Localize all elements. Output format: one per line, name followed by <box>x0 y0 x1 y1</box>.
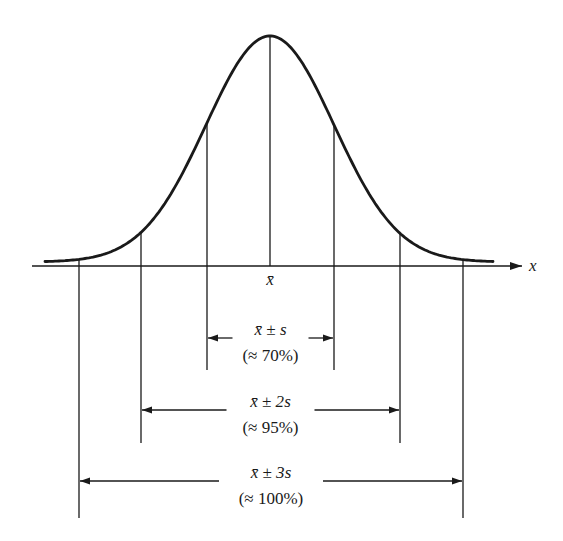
interval-3s: x̄ ± 3s(≈ 100%) <box>79 259 463 518</box>
interval-formula-1s: x̄ ± s <box>253 320 286 339</box>
interval-percent-1s: (≈ 70%) <box>242 346 298 365</box>
normal-distribution-diagram: x x̄ x̄ ± s(≈ 70%)x̄ ± 2s(≈ 95%)x̄ ± 3s(… <box>0 0 563 541</box>
interval-percent-2s: (≈ 95%) <box>242 418 298 437</box>
interval-percent-3s: (≈ 100%) <box>239 489 304 508</box>
x-axis-label: x <box>528 256 537 275</box>
mean-label: x̄ <box>265 270 274 289</box>
interval-formula-3s: x̄ ± 3s <box>250 463 292 482</box>
interval-formula-2s: x̄ ± 2s <box>249 392 291 411</box>
diagram-svg: x x̄ x̄ ± s(≈ 70%)x̄ ± 2s(≈ 95%)x̄ ± 3s(… <box>0 0 563 541</box>
bell-curve <box>45 36 493 262</box>
